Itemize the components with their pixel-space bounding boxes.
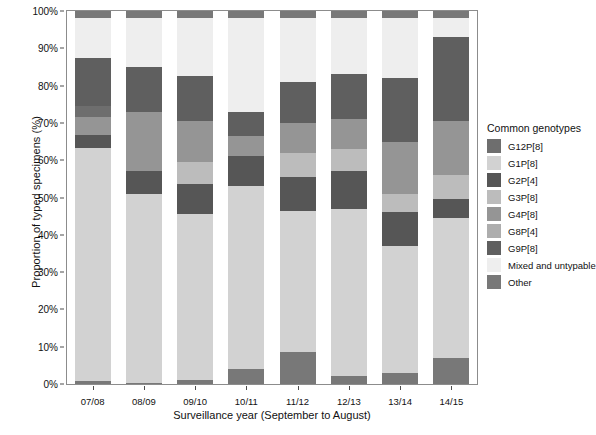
- legend-item[interactable]: G8P[4]: [487, 223, 595, 239]
- bar-segment[interactable]: [382, 373, 418, 384]
- bar-segment[interactable]: [177, 18, 213, 76]
- bar-segment[interactable]: [433, 199, 469, 218]
- bar-segment[interactable]: [331, 209, 367, 376]
- bar-segment[interactable]: [126, 11, 162, 18]
- bar-segment[interactable]: [433, 358, 469, 384]
- bar-segment[interactable]: [126, 383, 162, 384]
- bar-segment[interactable]: [382, 212, 418, 246]
- bar-11-12[interactable]: [280, 11, 316, 384]
- bar-segment[interactable]: [75, 135, 111, 148]
- bar-segment[interactable]: [280, 82, 316, 123]
- bar-segment[interactable]: [280, 123, 316, 153]
- bar-segment[interactable]: [75, 381, 111, 384]
- bar-segment[interactable]: [331, 18, 367, 74]
- bar-segment[interactable]: [126, 112, 162, 172]
- bar-segment[interactable]: [177, 162, 213, 184]
- bar-segment[interactable]: [382, 11, 418, 18]
- legend-label: G4P[8]: [508, 209, 538, 220]
- bar-segment[interactable]: [75, 117, 111, 136]
- bar-07-08[interactable]: [75, 11, 111, 384]
- bar-segment[interactable]: [75, 11, 111, 18]
- bar-segment[interactable]: [433, 121, 469, 175]
- bar-segment[interactable]: [433, 37, 469, 121]
- legend-item[interactable]: G9P[8]: [487, 240, 595, 256]
- bar-segment[interactable]: [280, 11, 316, 18]
- y-tick-label: 50%: [38, 192, 58, 203]
- bar-segment[interactable]: [75, 18, 111, 57]
- bar-segment[interactable]: [126, 18, 162, 66]
- legend-label: Other: [508, 277, 532, 288]
- y-axis-ticks: 0%10%20%30%40%50%60%70%80%90%100%: [0, 0, 66, 435]
- legend-item[interactable]: Other: [487, 274, 595, 290]
- bar-segment[interactable]: [331, 376, 367, 384]
- bar-segment[interactable]: [177, 380, 213, 384]
- bar-segment[interactable]: [382, 78, 418, 141]
- bar-10-11[interactable]: [228, 11, 264, 384]
- bar-segment[interactable]: [331, 149, 367, 171]
- legend-swatch-icon: [487, 139, 501, 153]
- bar-segment[interactable]: [280, 352, 316, 384]
- bar-segment[interactable]: [126, 171, 162, 193]
- bar-segment[interactable]: [177, 76, 213, 121]
- bar-segment[interactable]: [382, 18, 418, 78]
- bar-segment[interactable]: [126, 67, 162, 112]
- bar-segment[interactable]: [331, 74, 367, 119]
- bar-segment[interactable]: [75, 58, 111, 106]
- bar-13-14[interactable]: [382, 11, 418, 384]
- bar-segment[interactable]: [280, 177, 316, 211]
- y-tick-mark: [60, 384, 64, 385]
- bar-12-13[interactable]: [331, 11, 367, 384]
- y-tick-mark: [60, 309, 64, 310]
- bar-segment[interactable]: [331, 11, 367, 18]
- legend-label: G3P[8]: [508, 192, 538, 203]
- bar-segment[interactable]: [280, 211, 316, 353]
- bar-segment[interactable]: [228, 186, 264, 369]
- bar-segment[interactable]: [382, 194, 418, 213]
- bar-segment[interactable]: [382, 142, 418, 194]
- bar-segment[interactable]: [75, 106, 111, 116]
- y-tick-label: 0%: [44, 379, 58, 390]
- legend-swatch-icon: [487, 275, 501, 289]
- bar-segment[interactable]: [228, 156, 264, 186]
- legend-item[interactable]: Mixed and untypable: [487, 257, 595, 273]
- legend-item[interactable]: G4P[8]: [487, 206, 595, 222]
- legend-item[interactable]: G1P[8]: [487, 155, 595, 171]
- bar-segment[interactable]: [177, 184, 213, 214]
- bar-segment[interactable]: [177, 121, 213, 162]
- legend-item[interactable]: G3P[8]: [487, 189, 595, 205]
- bar-segment[interactable]: [228, 18, 264, 111]
- bar-09-10[interactable]: [177, 11, 213, 384]
- bar-14-15[interactable]: [433, 11, 469, 384]
- x-tick-mark: [195, 386, 196, 390]
- bar-segment[interactable]: [228, 11, 264, 18]
- y-tick-label: 40%: [38, 229, 58, 240]
- bar-segment[interactable]: [433, 218, 469, 358]
- bar-segment[interactable]: [280, 153, 316, 177]
- y-tick-label: 100%: [32, 6, 58, 17]
- legend-item[interactable]: G2P[4]: [487, 172, 595, 188]
- plot-area: [67, 11, 477, 384]
- bar-segment[interactable]: [126, 194, 162, 383]
- x-tick-mark: [93, 386, 94, 390]
- x-axis-ticks: 07/0808/0909/1010/1111/1212/1313/1414/15: [67, 386, 477, 410]
- bar-08-09[interactable]: [126, 11, 162, 384]
- bar-segment[interactable]: [433, 18, 469, 37]
- bar-segment[interactable]: [280, 18, 316, 81]
- bar-segment[interactable]: [433, 175, 469, 199]
- legend-swatch-icon: [487, 258, 501, 272]
- bar-segment[interactable]: [177, 11, 213, 18]
- bar-segment[interactable]: [228, 112, 264, 136]
- bar-segment[interactable]: [331, 119, 367, 149]
- bar-segment[interactable]: [228, 369, 264, 384]
- bar-segment[interactable]: [382, 246, 418, 373]
- legend-label: G1P[8]: [508, 158, 538, 169]
- bar-segment[interactable]: [228, 136, 264, 157]
- bar-segment[interactable]: [177, 214, 213, 379]
- bar-segment[interactable]: [433, 11, 469, 18]
- y-tick-mark: [60, 234, 64, 235]
- y-tick-mark: [60, 197, 64, 198]
- legend-item[interactable]: G12P[8]: [487, 138, 595, 154]
- legend-swatch-icon: [487, 173, 501, 187]
- bar-segment[interactable]: [331, 171, 367, 208]
- bar-segment[interactable]: [75, 148, 111, 381]
